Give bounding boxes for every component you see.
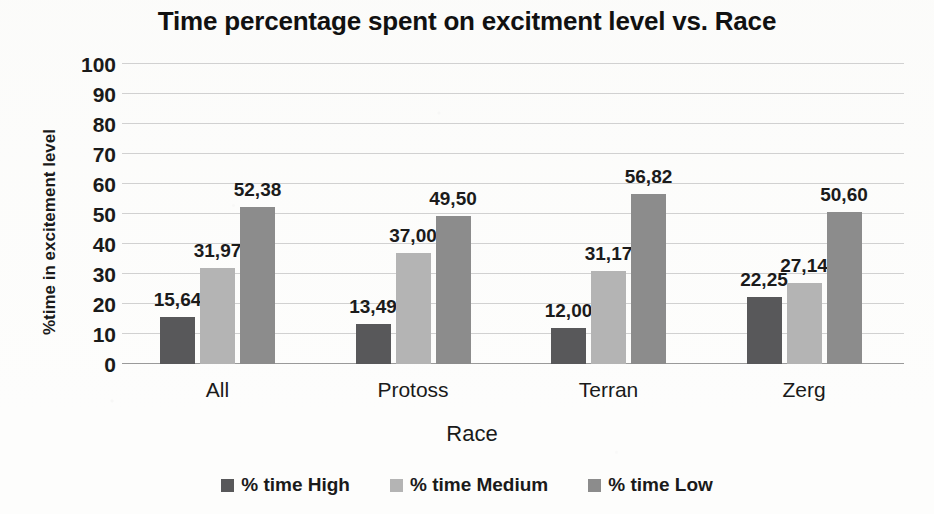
bar-wrapper: 31,17 xyxy=(591,64,626,364)
bar-wrapper: 56,82 xyxy=(631,64,666,364)
bar[interactable] xyxy=(200,268,235,364)
chart-container: Time percentage spent on excitment level… xyxy=(0,0,934,514)
legend-label: % time Medium xyxy=(410,474,548,496)
bar-wrapper: 13,49 xyxy=(356,64,391,364)
y-tick-label: 0 xyxy=(104,354,116,375)
y-tick-label: 20 xyxy=(93,294,116,315)
legend-swatch-medium-icon xyxy=(390,479,403,492)
legend-label: % time Low xyxy=(608,474,713,496)
bar-wrapper: 49,50 xyxy=(436,64,471,364)
bar-value-label: 52,38 xyxy=(234,179,282,201)
y-tick-label: 70 xyxy=(93,144,116,165)
chart-title: Time percentage spent on excitment level… xyxy=(0,6,934,37)
y-tick-label: 30 xyxy=(93,264,116,285)
legend-label: % time High xyxy=(241,474,350,496)
bar[interactable] xyxy=(747,297,782,364)
bar-value-label: 56,82 xyxy=(625,166,673,188)
bar[interactable] xyxy=(787,283,822,364)
bar[interactable] xyxy=(591,271,626,365)
y-tick-label: 10 xyxy=(93,324,116,345)
bar-value-label: 31,97 xyxy=(194,240,242,262)
legend-item[interactable]: % time Medium xyxy=(390,474,548,496)
chart-legend: % time High% time Medium% time Low xyxy=(0,474,934,496)
y-tick-label: 40 xyxy=(93,234,116,255)
legend-item[interactable]: % time Low xyxy=(588,474,713,496)
bar-group: 12,0031,1756,82 xyxy=(551,64,666,364)
bar[interactable] xyxy=(240,207,275,364)
bar-value-label: 15,64 xyxy=(154,289,202,311)
bar-value-label: 27,14 xyxy=(780,255,828,277)
bar-groups: 15,6431,9752,3813,4937,0049,5012,0031,17… xyxy=(122,64,904,364)
bar-wrapper: 37,00 xyxy=(396,64,431,364)
bar-wrapper: 31,97 xyxy=(200,64,235,364)
x-category-label: Protoss xyxy=(377,378,448,402)
bar-group: 15,6431,9752,38 xyxy=(160,64,275,364)
bar-wrapper: 52,38 xyxy=(240,64,275,364)
x-category-label: Zerg xyxy=(782,378,825,402)
y-tick-label: 80 xyxy=(93,114,116,135)
bar[interactable] xyxy=(631,194,666,364)
legend-swatch-low-icon xyxy=(588,479,601,492)
plot-area: 15,6431,9752,3813,4937,0049,5012,0031,17… xyxy=(122,64,904,364)
bar[interactable] xyxy=(160,317,195,364)
bar-wrapper: 22,25 xyxy=(747,64,782,364)
bar-wrapper: 50,60 xyxy=(827,64,862,364)
x-category-label: All xyxy=(206,378,229,402)
legend-swatch-high-icon xyxy=(221,479,234,492)
bar-wrapper: 15,64 xyxy=(160,64,195,364)
bar[interactable] xyxy=(551,328,586,364)
bar-value-label: 50,60 xyxy=(820,184,868,206)
y-tick-label: 60 xyxy=(93,174,116,195)
legend-item[interactable]: % time High xyxy=(221,474,350,496)
bar-value-label: 49,50 xyxy=(429,188,477,210)
bar[interactable] xyxy=(436,216,471,365)
bar[interactable] xyxy=(827,212,862,364)
y-tick-label: 50 xyxy=(93,204,116,225)
y-tick-label: 90 xyxy=(93,84,116,105)
bar[interactable] xyxy=(356,324,391,364)
x-axis-category-labels: AllProtossTerranZerg xyxy=(122,378,904,408)
bar[interactable] xyxy=(396,253,431,364)
bar-value-label: 13,49 xyxy=(349,296,397,318)
bar-value-label: 12,00 xyxy=(545,300,593,322)
bar-value-label: 31,17 xyxy=(585,243,633,265)
bar-group: 13,4937,0049,50 xyxy=(356,64,471,364)
bar-wrapper: 12,00 xyxy=(551,64,586,364)
x-category-label: Terran xyxy=(579,378,639,402)
bar-group: 22,2527,1450,60 xyxy=(747,64,862,364)
bar-value-label: 37,00 xyxy=(389,225,437,247)
x-axis-title: Race xyxy=(122,421,822,447)
y-tick-label: 100 xyxy=(81,54,116,75)
y-axis-tick-labels: 1009080706050403020100 xyxy=(60,64,116,364)
bar-wrapper: 27,14 xyxy=(787,64,822,364)
y-axis-title: %time in excitement level xyxy=(40,82,60,382)
